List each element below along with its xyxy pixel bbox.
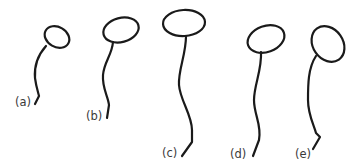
figure-c: (c): [162, 9, 206, 160]
figure-a-label: (a): [15, 95, 31, 109]
figure-e-head: [305, 20, 351, 68]
figure-b-label: (b): [86, 109, 102, 123]
figure-c-label: (c): [162, 146, 177, 160]
figure-b: (b): [86, 14, 141, 123]
figure-a-stem: [35, 46, 46, 104]
figure-b-stem: [103, 42, 113, 118]
figure-e-label: (e): [295, 147, 311, 161]
figure-b-head: [101, 14, 142, 46]
figure-d-stem: [253, 52, 261, 156]
figure-c-stem: [179, 36, 192, 156]
figure-a: (a): [15, 22, 73, 109]
figure-d-head: [244, 20, 289, 57]
figure-e-stem: [308, 56, 320, 149]
figure-d: (d): [230, 20, 288, 161]
figure-c-head: [162, 9, 205, 37]
diagram-canvas: (a) (b) (c) (d) (e): [0, 0, 361, 164]
figure-d-label: (d): [230, 147, 246, 161]
figure-e: (e): [295, 20, 351, 161]
